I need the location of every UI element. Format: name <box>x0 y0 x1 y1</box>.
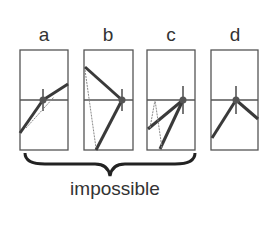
panel-c <box>147 50 195 150</box>
panel-a <box>20 50 68 150</box>
impossible-caption: impossible <box>40 178 190 200</box>
panel-b <box>84 50 133 150</box>
panel-d <box>211 50 258 150</box>
curly-brace <box>25 153 195 176</box>
